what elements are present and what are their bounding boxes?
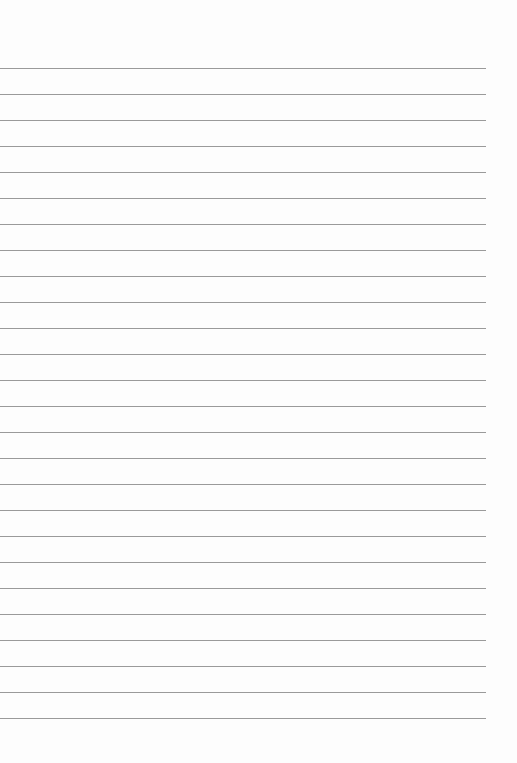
ruled-line (0, 536, 486, 537)
ruled-line (0, 432, 486, 433)
ruled-line (0, 666, 486, 667)
ruled-line (0, 94, 486, 95)
ruled-line (0, 692, 486, 693)
ruled-line (0, 146, 486, 147)
ruled-line (0, 588, 486, 589)
lined-paper-page (0, 0, 517, 763)
ruled-line (0, 354, 486, 355)
ruled-line (0, 302, 486, 303)
ruled-line (0, 718, 486, 719)
ruled-line (0, 380, 486, 381)
ruled-line (0, 198, 486, 199)
ruled-line (0, 614, 486, 615)
ruled-line (0, 640, 486, 641)
ruled-line (0, 68, 486, 69)
ruled-line (0, 120, 486, 121)
ruled-line (0, 510, 486, 511)
ruled-line (0, 224, 486, 225)
ruled-line (0, 484, 486, 485)
ruled-line (0, 458, 486, 459)
ruled-line (0, 172, 486, 173)
ruled-line (0, 250, 486, 251)
ruled-line (0, 328, 486, 329)
ruled-line (0, 406, 486, 407)
ruled-line (0, 562, 486, 563)
ruled-line (0, 276, 486, 277)
